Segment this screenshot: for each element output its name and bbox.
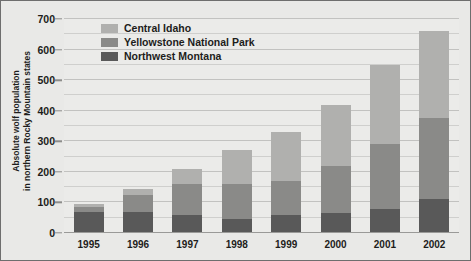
y-axis-tick-mark <box>55 79 62 80</box>
y-axis-tick-mark <box>55 141 62 142</box>
x-axis-tick-label: 1996 <box>127 239 149 250</box>
legend-item: Central Idaho <box>101 23 255 34</box>
x-axis-tick-label: 1995 <box>78 239 100 250</box>
legend-swatch <box>101 24 118 33</box>
gridline-major <box>64 18 459 19</box>
x-axis-tick-label: 1999 <box>275 239 297 250</box>
bar-segment <box>271 215 301 233</box>
bar-group <box>321 105 351 233</box>
y-axis-tick-mark <box>55 202 62 203</box>
y-axis-tick-label: 500 <box>15 74 55 86</box>
bar-segment <box>370 65 400 144</box>
bar-segment <box>370 209 400 233</box>
y-axis-tick-mark <box>55 18 62 19</box>
bar-group <box>74 204 104 233</box>
y-axis-tick-label: 200 <box>15 166 55 178</box>
bar-segment <box>271 132 301 181</box>
x-axis-tick-label: 2000 <box>324 239 346 250</box>
bar-group <box>419 31 449 233</box>
y-axis-tick-label: 700 <box>15 13 55 25</box>
bar-segment <box>222 184 252 219</box>
bar-segment <box>123 212 153 233</box>
bar-group <box>172 169 202 233</box>
chart-figure: Absolute wolf population in northern Roc… <box>0 0 471 261</box>
x-axis-tick-label: 1998 <box>226 239 248 250</box>
bar-group <box>222 150 252 233</box>
bar-group <box>123 189 153 233</box>
x-axis-tick-label: 2001 <box>374 239 396 250</box>
y-axis-tick-mark <box>55 49 62 50</box>
y-axis-tick-label: 400 <box>15 105 55 117</box>
bar-segment <box>321 105 351 166</box>
bar-group <box>370 65 400 233</box>
y-axis-tick-mark <box>55 110 62 111</box>
bar-segment <box>172 184 202 215</box>
bar-segment <box>271 181 301 215</box>
bar-group <box>271 132 301 233</box>
bar-segment <box>419 118 449 199</box>
bar-segment <box>74 212 104 233</box>
bar-segment <box>123 195 153 212</box>
legend-swatch <box>101 52 118 61</box>
legend-label: Central Idaho <box>124 23 191 34</box>
y-axis-tick-label: 100 <box>15 196 55 208</box>
bar-segment <box>321 166 351 213</box>
bar-segment <box>222 150 252 184</box>
y-axis-tick-mark <box>55 232 62 233</box>
legend-label: Northwest Montana <box>124 51 221 62</box>
bar-segment <box>419 199 449 233</box>
legend-item: Northwest Montana <box>101 51 255 62</box>
legend-label: Yellowstone National Park <box>124 37 255 48</box>
y-axis-tick-label: 0 <box>15 227 55 239</box>
bar-segment <box>370 144 400 208</box>
y-axis-tick-mark <box>55 171 62 172</box>
legend-item: Yellowstone National Park <box>101 37 255 48</box>
legend-swatch <box>101 38 118 47</box>
x-axis-line <box>64 232 459 233</box>
bar-segment <box>419 31 449 118</box>
bar-segment <box>172 215 202 233</box>
x-axis-tick-label: 1997 <box>176 239 198 250</box>
y-axis-tick-label: 600 <box>15 44 55 56</box>
chart-legend: Central IdahoYellowstone National ParkNo… <box>101 23 255 62</box>
x-axis-tick-label: 2002 <box>423 239 445 250</box>
bar-segment <box>172 169 202 184</box>
y-axis-tick-label: 300 <box>15 135 55 147</box>
bar-segment <box>321 213 351 233</box>
